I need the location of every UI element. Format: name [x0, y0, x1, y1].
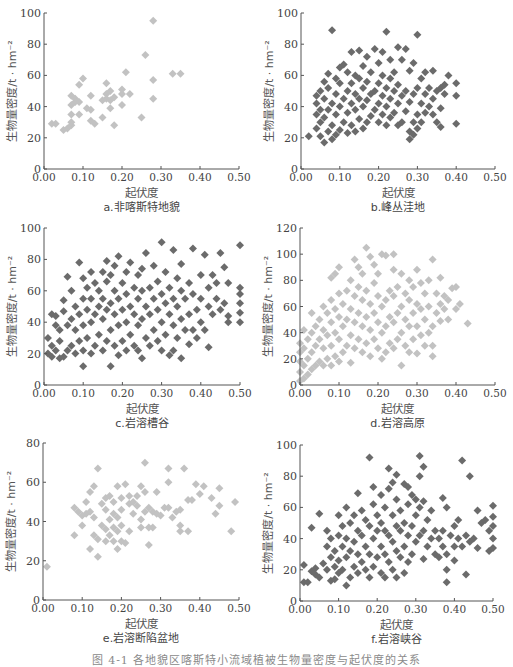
- diamond-marker: [362, 339, 370, 347]
- diamond-marker: [79, 321, 87, 329]
- diamond-marker: [308, 309, 316, 317]
- diamond-marker: [421, 68, 429, 76]
- diamond-marker: [129, 510, 137, 518]
- diamond-marker: [340, 95, 348, 103]
- diamond-marker: [458, 457, 466, 465]
- diamond-marker: [409, 309, 417, 317]
- diamond-marker: [323, 309, 331, 317]
- y-tick-label: 60: [27, 69, 41, 82]
- diamond-marker: [70, 531, 78, 539]
- diamond-marker: [396, 507, 404, 515]
- diamond-marker: [117, 494, 125, 502]
- diamond-marker: [335, 556, 343, 564]
- diamond-marker: [169, 70, 177, 78]
- diamond-marker: [331, 305, 339, 313]
- x-tick-label: 0.00: [289, 171, 312, 183]
- x-axis-label: 起伏度: [126, 402, 160, 416]
- diamond-marker: [386, 56, 394, 64]
- diamond-marker: [154, 337, 162, 345]
- x-tick-label: 0.10: [72, 387, 95, 399]
- diamond-marker: [354, 489, 362, 497]
- y-axis-label: 生物量密度/t · hm⁻²: [261, 256, 275, 357]
- diamond-marker: [75, 81, 83, 89]
- diamond-marker: [44, 334, 52, 342]
- diamond-marker: [365, 522, 373, 530]
- diamond-marker: [312, 322, 320, 330]
- diamond-marker: [450, 556, 458, 564]
- y-tick-label: 80: [284, 38, 298, 51]
- diamond-marker: [429, 352, 437, 360]
- diamond-marker: [113, 482, 121, 490]
- diamond-marker: [362, 287, 370, 295]
- diamond-marker: [450, 542, 458, 550]
- diamond-marker: [212, 279, 220, 287]
- diamond-marker: [413, 266, 421, 274]
- diamond-marker: [474, 507, 482, 515]
- diamond-marker: [209, 310, 217, 318]
- diamond-marker: [331, 547, 339, 555]
- diamond-marker: [324, 84, 332, 92]
- diamond-marker: [433, 309, 441, 317]
- diamond-marker: [382, 348, 390, 356]
- diamond-marker: [394, 335, 402, 343]
- diamond-marker: [416, 472, 424, 480]
- diamond-marker: [125, 492, 133, 500]
- diamond-marker: [354, 550, 362, 558]
- diamond-marker: [236, 318, 244, 326]
- diamond-marker: [363, 118, 371, 126]
- diamond-marker: [366, 300, 374, 308]
- diamond-marker: [177, 70, 185, 78]
- x-tick-label: 0.20: [111, 387, 134, 399]
- diamond-marker: [150, 326, 158, 334]
- diamond-marker: [365, 574, 373, 582]
- diamond-marker: [362, 542, 370, 550]
- diamond-marker: [443, 503, 451, 511]
- diamond-marker: [462, 531, 470, 539]
- diamond-marker: [312, 342, 320, 350]
- x-tick-label: 0.30: [149, 171, 172, 183]
- diamond-marker: [425, 303, 433, 311]
- diamond-marker: [308, 329, 316, 337]
- diamond-marker: [90, 482, 98, 490]
- diamond-marker: [429, 322, 437, 330]
- x-tick-label: 0.00: [32, 171, 55, 183]
- diamond-marker: [338, 542, 346, 550]
- diamond-marker: [118, 101, 126, 109]
- diamond-marker: [106, 104, 114, 112]
- diamond-marker: [363, 53, 371, 61]
- diamond-marker: [389, 478, 397, 486]
- diamond-marker: [335, 531, 343, 539]
- diamond-marker: [347, 359, 355, 367]
- diamond-marker: [316, 335, 324, 343]
- diamond-marker: [400, 569, 408, 577]
- diamond-marker: [390, 87, 398, 95]
- diamond-marker: [362, 244, 370, 252]
- diamond-marker: [402, 45, 410, 53]
- diamond-marker: [122, 268, 130, 276]
- diamond-marker: [67, 315, 75, 323]
- x-tick-label: 0.00: [288, 603, 311, 615]
- diamond-marker: [103, 337, 111, 345]
- diamond-marker: [386, 95, 394, 103]
- diamond-marker: [417, 99, 425, 107]
- diamond-marker: [425, 103, 433, 111]
- diamond-marker: [441, 90, 449, 98]
- diamond-marker: [189, 290, 197, 298]
- x-axis-label: 起伏度: [125, 186, 159, 200]
- diamond-marker: [110, 537, 118, 545]
- diamond-marker: [141, 488, 149, 496]
- x-tick-label: 0.10: [71, 171, 94, 183]
- diamond-marker: [185, 279, 193, 287]
- x-tick-label: 0.50: [228, 387, 251, 399]
- diamond-marker: [444, 71, 452, 79]
- diamond-marker: [358, 296, 366, 304]
- diamond-marker: [122, 68, 130, 76]
- diamond-marker: [43, 563, 51, 571]
- diamond-marker: [87, 350, 95, 358]
- diamond-marker: [95, 331, 103, 339]
- diamond-marker: [164, 478, 172, 486]
- diamond-marker: [462, 570, 470, 578]
- diamond-marker: [138, 287, 146, 295]
- diamond-marker: [91, 279, 99, 287]
- diamond-marker: [106, 531, 114, 539]
